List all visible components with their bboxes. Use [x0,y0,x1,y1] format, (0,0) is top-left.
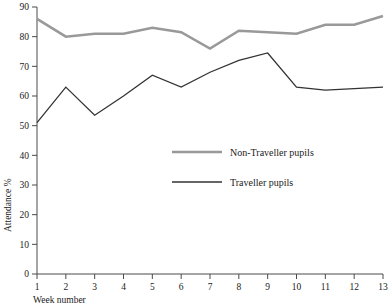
y-tick-label: 80 [20,32,30,42]
x-tick-label: 8 [236,282,241,292]
series-line-non-traveller [37,16,383,49]
x-tick-label: 1 [35,282,40,292]
x-axis-title: Week number [33,295,87,305]
x-tick-label: 5 [150,282,155,292]
x-tick-label: 10 [292,282,302,292]
x-tick-label: 12 [349,282,359,292]
x-tick-label: 2 [63,282,68,292]
y-tick-label: 40 [20,151,30,161]
x-tick-label: 11 [321,282,330,292]
y-tick-label: 70 [20,62,30,72]
legend-label-traveller: Traveller pupils [230,177,293,188]
x-tick-label: 3 [92,282,97,292]
series-line-traveller [37,53,383,123]
y-tick-label: 50 [20,121,30,131]
legend-label-non-traveller: Non-Traveller pupils [230,147,314,158]
x-tick-label: 13 [378,282,388,292]
y-tick-label: 20 [20,210,30,220]
chart-svg: 0102030405060708090 12345678910111213 At… [0,0,388,308]
y-tick-label: 10 [20,240,30,250]
data-series-group [37,16,383,123]
y-tick-label: 90 [20,2,30,12]
y-tick-label: 30 [20,180,30,190]
y-axis-title: Attendance % [3,178,13,232]
y-tick-label: 0 [24,269,29,279]
y-tick-label: 60 [20,91,30,101]
x-tick-label: 7 [208,282,213,292]
x-axis-ticks: 12345678910111213 [35,274,388,292]
x-tick-label: 4 [121,282,126,292]
attendance-line-chart: 0102030405060708090 12345678910111213 At… [0,0,388,308]
y-axis-ticks: 0102030405060708090 [20,2,38,279]
x-tick-label: 6 [179,282,184,292]
chart-legend: Non-Traveller pupils Traveller pupils [172,147,314,188]
x-tick-label: 9 [265,282,270,292]
